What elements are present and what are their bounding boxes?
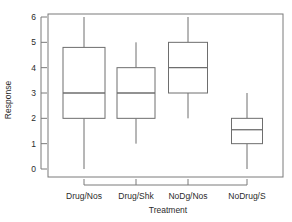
x-axis-tick-label-nodg-nos: NoDg/Nos (168, 191, 207, 201)
x-axis-title: Treatment (149, 205, 188, 215)
box-series (63, 17, 263, 169)
box-drug-nos (63, 17, 105, 169)
y-axis-tick-label: 4 (31, 63, 36, 73)
y-axis-tick-label: 0 (31, 164, 36, 174)
x-axis-tick-label-drug-nos: Drug/Nos (66, 191, 102, 201)
x-axis-tick-label-nodrug-s: NoDrug/S (228, 191, 266, 201)
x-axis-tick-label-drug-shk: Drug/Shk (118, 191, 154, 201)
box-body (63, 47, 105, 118)
boxplot-figure: 0123456 Drug/NosDrug/ShkNoDg/NosNoDrug/S… (0, 0, 292, 222)
box-body (232, 118, 263, 143)
y-axis-tick-label: 2 (31, 113, 36, 123)
x-axis: Drug/NosDrug/ShkNoDg/NosNoDrug/S (66, 179, 266, 201)
boxplot-canvas: 0123456 Drug/NosDrug/ShkNoDg/NosNoDrug/S… (0, 0, 292, 222)
y-axis-tick-label: 5 (31, 37, 36, 47)
y-axis-title: Response (3, 81, 13, 120)
box-drug-shk (117, 42, 155, 143)
box-nodg-nos (169, 17, 208, 118)
y-axis-tick-label: 1 (31, 139, 36, 149)
y-axis-tick-label: 3 (31, 88, 36, 98)
box-nodrug-s (232, 93, 263, 169)
y-axis-tick-label: 6 (31, 12, 36, 22)
y-axis: 0123456 (31, 12, 47, 174)
